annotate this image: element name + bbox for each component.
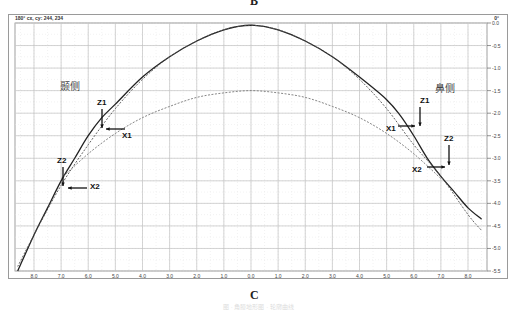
left-x2-label: X2 (90, 182, 100, 191)
left-x1-label: X1 (122, 131, 132, 140)
right-z1-label: Z1 (420, 96, 429, 105)
x-tick-label: 8.0 (31, 273, 38, 279)
y-tick-label: -2.5 (492, 133, 501, 139)
right-z2-label: Z2 (444, 134, 453, 143)
y-tick-label: -0.5 (492, 43, 501, 49)
profile-plot: 0.0-0.5-1.0-1.5-2.0-2.5-3.0-3.5-4.0-4.5-… (9, 15, 509, 280)
y-tick-label: -3.5 (492, 178, 501, 184)
x-tick-label: 3.0 (166, 273, 173, 279)
y-tick-label: -1.5 (492, 88, 501, 94)
x-tick-label: 3.0 (329, 273, 336, 279)
nasal-side-label: 鼻侧 (435, 80, 455, 95)
x-tick-label: 6.0 (85, 273, 92, 279)
y-tick-label: 0.0 (492, 20, 499, 26)
x-tick-label: 7.0 (58, 273, 65, 279)
x-tick-label: 6.0 (410, 273, 417, 279)
y-tick-label: -4.0 (492, 200, 501, 206)
x-tick-label: 1.0 (275, 273, 282, 279)
x-tick-label: 2.0 (193, 273, 200, 279)
x-tick-label: 2.0 (302, 273, 309, 279)
figure-caption-letter: C (250, 288, 259, 303)
y-tick-label: -3.0 (492, 155, 501, 161)
x-tick-label: 0.0 (248, 273, 255, 279)
x-tick-label: 4.0 (139, 273, 146, 279)
chart-frame: 180° cx, cy: 244, 234 0° 0.0-0.5-1.0-1.5… (8, 14, 508, 279)
y-tick-label: -1.0 (492, 65, 501, 71)
x-tick-label: 7.0 (437, 273, 444, 279)
left-z1-label: Z1 (97, 98, 106, 107)
y-tick-label: -5.0 (492, 245, 501, 251)
x-tick-label: 8.0 (465, 273, 472, 279)
right-x1-label: X1 (386, 124, 396, 133)
figure-footer-text: 图 · 角膜地形图 · 轮廓曲线 (0, 302, 517, 310)
y-tick-label: -5.5 (492, 268, 501, 274)
x-tick-label: 1.0 (220, 273, 227, 279)
temporal-side-label: 颞侧 (60, 78, 80, 93)
x-tick-label: 5.0 (383, 273, 390, 279)
right-x2-label: X2 (412, 165, 422, 174)
x-tick-label: 5.0 (112, 273, 119, 279)
left-z2-label: Z2 (57, 156, 66, 165)
y-tick-label: -4.5 (492, 223, 501, 229)
y-tick-label: -2.0 (492, 110, 501, 116)
figure-top-letter: B (250, 0, 258, 9)
x-tick-label: 4.0 (356, 273, 363, 279)
